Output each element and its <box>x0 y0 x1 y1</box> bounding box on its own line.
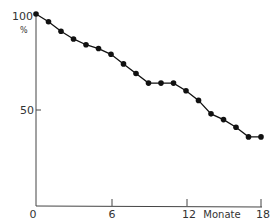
series-points <box>33 11 264 139</box>
x-label-6: 6 <box>109 208 116 221</box>
data-point <box>133 71 139 77</box>
x-axis <box>36 206 262 207</box>
y-unit-label: % <box>20 26 28 35</box>
data-point <box>33 11 39 17</box>
data-point <box>183 88 189 94</box>
series-line <box>36 14 261 137</box>
data-point <box>208 111 214 117</box>
x-label-18: 18 <box>256 208 270 221</box>
x-label-12: 12 <box>182 208 196 221</box>
data-point <box>71 36 77 42</box>
x-label-0: 0 <box>30 208 37 221</box>
line-chart: 100 % 50 0 6 12 Monate 18 <box>0 0 279 222</box>
data-point <box>58 28 64 34</box>
data-point <box>233 124 239 130</box>
data-point <box>258 134 264 140</box>
data-point <box>221 117 227 123</box>
y-label-50: 50 <box>20 104 34 117</box>
data-point <box>108 52 114 58</box>
data-point <box>246 134 252 140</box>
data-point <box>96 46 102 52</box>
y-label-100: 100 <box>12 10 33 23</box>
x-axis-title: Monate <box>203 209 240 220</box>
data-point <box>158 80 164 86</box>
data-point <box>46 19 52 25</box>
data-point <box>121 61 127 67</box>
data-point <box>146 80 152 86</box>
data-point <box>196 98 202 104</box>
data-point <box>83 42 89 48</box>
data-point <box>171 80 177 86</box>
